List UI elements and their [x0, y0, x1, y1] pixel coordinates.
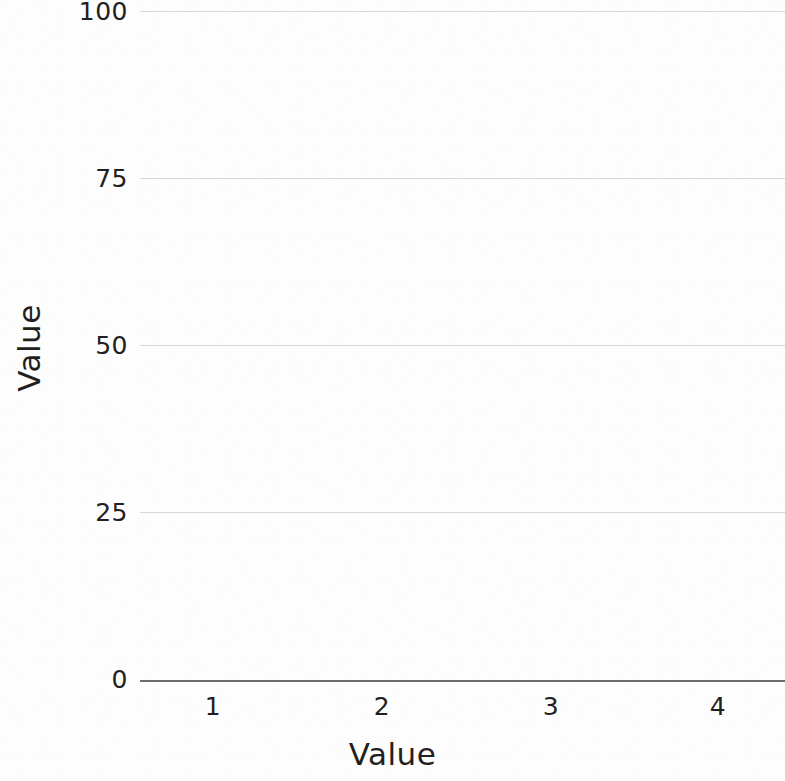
- y-tick-label-50: 50: [95, 331, 128, 360]
- y-tick-label-75: 75: [95, 164, 128, 193]
- gridline-75: [140, 178, 785, 179]
- y-tick-label-25: 25: [95, 498, 128, 527]
- chart-figure: 100 75 50 25 0 1 2 3 4 Value Value: [0, 0, 785, 781]
- gridline-100: [140, 11, 785, 12]
- y-tick-label-100: 100: [79, 0, 128, 26]
- gridline-25: [140, 512, 785, 513]
- gridline-50: [140, 345, 785, 346]
- plot-area: [140, 11, 785, 681]
- x-axis-title: Value: [0, 736, 785, 772]
- x-tick-label-4: 4: [710, 692, 726, 721]
- x-axis-line: [140, 680, 785, 682]
- x-tick-label-1: 1: [205, 692, 221, 721]
- y-axis-title: Value: [11, 268, 47, 428]
- x-tick-label-2: 2: [374, 692, 390, 721]
- y-tick-label-0: 0: [112, 665, 128, 694]
- x-tick-label-3: 3: [543, 692, 559, 721]
